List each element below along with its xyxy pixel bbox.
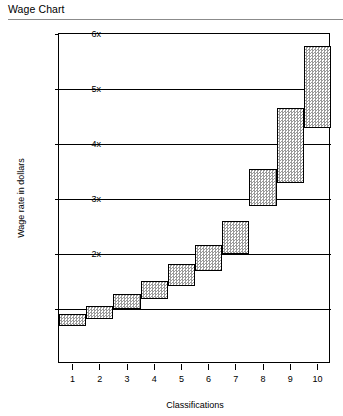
x-tick-mark [317, 364, 318, 370]
x-tick-mark [99, 364, 100, 370]
wage-band-bar [304, 46, 331, 128]
x-axis-tick-label: 1 [58, 374, 88, 384]
y-axis-tick-label: 6x [51, 29, 101, 39]
x-axis-tick-label: 7 [221, 374, 251, 384]
y-axis-title: Wage rate in dollars [16, 158, 26, 238]
wage-band-bar [113, 294, 140, 309]
wage-band-bar [249, 169, 276, 206]
wage-chart: x2x3x4x5x6xWage rate in dollars123456789… [0, 0, 343, 416]
wage-band-bar [168, 264, 195, 286]
wage-band-bar [277, 108, 304, 183]
x-axis-tick-label: 10 [302, 374, 332, 384]
x-axis-tick-label: 8 [248, 374, 278, 384]
page-root: Wage Chart x2x3x4x5x6xWage rate in dolla… [0, 0, 343, 416]
wage-band-bar [222, 221, 249, 254]
x-tick-mark [181, 364, 182, 370]
x-axis-tick-label: 9 [275, 374, 305, 384]
y-axis-tick-label: 4x [51, 139, 101, 149]
x-axis-title: Classifications [59, 400, 331, 410]
x-tick-mark [208, 364, 209, 370]
plot-area: x2x3x4x5x6xWage rate in dollars123456789… [58, 33, 330, 363]
x-tick-mark [72, 364, 73, 370]
x-axis-tick-label: 4 [139, 374, 169, 384]
y-axis-tick-label: 3x [51, 194, 101, 204]
x-tick-mark [263, 364, 264, 370]
x-tick-mark [235, 364, 236, 370]
wage-band-bar [86, 306, 113, 319]
y-axis-tick-label: 5x [51, 84, 101, 94]
x-axis-tick-label: 5 [166, 374, 196, 384]
y-axis-tick-label: 2x [51, 249, 101, 259]
x-axis-tick-label: 3 [112, 374, 142, 384]
wage-band-bar [195, 245, 222, 271]
x-axis-tick-label: 2 [85, 374, 115, 384]
x-tick-mark [154, 364, 155, 370]
wage-band-bar [59, 314, 86, 326]
x-axis-tick-label: 6 [194, 374, 224, 384]
x-tick-mark [127, 364, 128, 370]
x-tick-mark [290, 364, 291, 370]
wage-band-bar [141, 281, 168, 299]
